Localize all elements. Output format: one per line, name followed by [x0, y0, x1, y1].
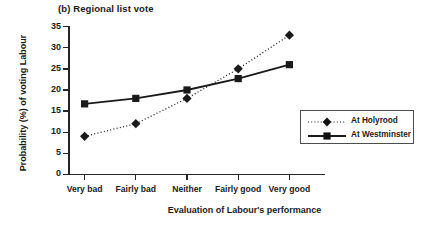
data-point: [235, 75, 242, 82]
data-point: [182, 94, 191, 103]
data-point: [285, 31, 294, 40]
data-point: [132, 95, 139, 102]
legend-swatch-diamond-dotted: [307, 114, 347, 126]
series-at-holyrood: [80, 31, 294, 141]
data-point: [81, 100, 88, 107]
data-point: [80, 132, 89, 141]
legend-label-westminster: At Westminster: [351, 130, 411, 139]
data-point: [234, 64, 243, 73]
data-point: [183, 86, 190, 93]
legend: At Holyrood At Westminster: [300, 110, 414, 144]
legend-item-holyrood: At Holyrood: [307, 113, 398, 127]
figure-regional-list-vote: (b) Regional list vote 05101520253035 Ve…: [0, 0, 429, 236]
legend-label-holyrood: At Holyrood: [351, 116, 398, 125]
data-point: [131, 119, 140, 128]
legend-item-westminster: At Westminster: [307, 127, 411, 141]
data-point: [286, 61, 293, 68]
legend-swatch-square-solid: [307, 128, 347, 140]
series-line: [85, 35, 290, 136]
